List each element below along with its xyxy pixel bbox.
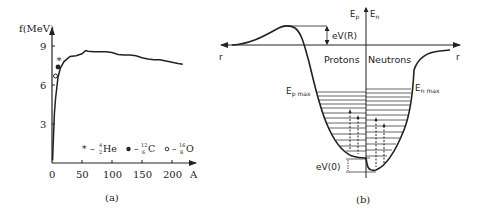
panel-b-diagram: r r Ep En eV(R) Protons Neutrons xyxy=(219,8,460,205)
neutron-energy-levels xyxy=(366,89,411,156)
proton-energy-levels xyxy=(317,92,370,158)
legend-c-element: C xyxy=(148,143,155,154)
well-offset-label: eV(0) xyxy=(316,162,340,172)
legend-he-element: He xyxy=(103,143,117,154)
xtick-150: 150 xyxy=(133,169,152,180)
legend-dash: – xyxy=(90,144,95,154)
xtick-50: 50 xyxy=(76,169,89,180)
ytick-9: 9 xyxy=(40,41,46,52)
binding-energy-curve xyxy=(53,51,183,161)
ytick-3: 3 xyxy=(40,119,46,130)
legend-o-symbol xyxy=(165,147,169,151)
x-axis-label: A xyxy=(189,169,198,180)
legend-he-charge: 2 xyxy=(99,149,102,155)
legend: * – 4 2 He – 12 6 C – 16 8 O xyxy=(82,142,194,155)
ytick-6: 6 xyxy=(40,80,46,91)
ep-max-label: Ep max xyxy=(286,86,311,98)
xtick-0: 0 xyxy=(49,169,55,180)
r-right-label: r xyxy=(456,52,460,62)
legend-c-charge: 6 xyxy=(142,149,145,155)
neutrons-label: Neutrons xyxy=(368,54,411,65)
ep-axis-label: Ep xyxy=(350,9,359,21)
legend-o-mass: 16 xyxy=(179,142,185,148)
legend-he-symbol: * xyxy=(82,144,87,154)
neutron-transition-arrows xyxy=(376,120,384,167)
en-axis-label: En xyxy=(370,9,379,20)
panel-b-label: (b) xyxy=(356,194,370,205)
legend-dash: – xyxy=(172,144,177,154)
legend-he-mass: 4 xyxy=(99,142,102,148)
en-max-label: En max xyxy=(415,83,440,94)
legend-dash: – xyxy=(134,144,139,154)
protons-label: Protons xyxy=(324,54,360,65)
y-axis-label: f(MeV) xyxy=(19,23,54,34)
legend-c-symbol xyxy=(126,147,130,151)
barrier-label: eV(R) xyxy=(332,31,357,41)
legend-c-mass: 12 xyxy=(141,142,147,148)
xtick-100: 100 xyxy=(103,169,122,180)
xtick-200: 200 xyxy=(163,169,182,180)
figure: f(MeV) 9 6 3 0 50 100 150 200 A * * – 4 … xyxy=(0,0,480,214)
o16-point-open xyxy=(54,74,58,78)
legend-o-element: O xyxy=(186,143,194,154)
r-left-label: r xyxy=(219,52,223,62)
legend-o-charge: 8 xyxy=(180,149,183,155)
c12-point-filled xyxy=(56,65,61,70)
panel-a-label: (a) xyxy=(105,192,119,203)
panel-a-chart: f(MeV) 9 6 3 0 50 100 150 200 A * * – 4 … xyxy=(19,23,198,203)
he4-point-star: * xyxy=(57,55,62,66)
